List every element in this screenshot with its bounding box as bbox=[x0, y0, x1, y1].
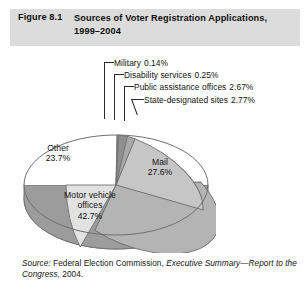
pie-label-mail-name: Mail bbox=[135, 157, 185, 167]
leader-stub-state-designated bbox=[131, 99, 144, 100]
leader-stub-disability bbox=[114, 74, 124, 75]
callout-value-disability-services: 0.25% bbox=[195, 70, 219, 80]
source-year: 2004. bbox=[60, 269, 83, 279]
pie-label-motor-value: 42.7% bbox=[45, 211, 135, 221]
callout-label-military: Military bbox=[114, 58, 141, 68]
callout-state-designated-sites: State-designated sites2.77% bbox=[144, 95, 255, 105]
pie-label-other: Other 23.7% bbox=[28, 143, 88, 164]
callout-value-state-designated-sites: 2.77% bbox=[231, 95, 255, 105]
callout-value-public-assistance-offices: 2.67% bbox=[229, 82, 253, 92]
leader-stub-military bbox=[104, 62, 114, 63]
pie-label-motor-name-line1: Motor vehicle bbox=[45, 190, 135, 200]
callout-disability-services: Disability services0.25% bbox=[124, 70, 219, 80]
pie-label-other-value: 23.7% bbox=[28, 153, 88, 163]
figure-number: Figure 8.1 bbox=[18, 12, 62, 22]
leader-stub-public-assistance bbox=[124, 86, 134, 87]
pie-label-mail-value: 27.6% bbox=[135, 167, 185, 177]
pie-label-other-name: Other bbox=[28, 143, 88, 153]
callout-public-assistance-offices: Public assistance offices2.67% bbox=[134, 82, 253, 92]
leader-line-military bbox=[104, 62, 105, 119]
source-prefix: Source: bbox=[22, 258, 51, 268]
callout-label-disability-services: Disability services bbox=[124, 70, 192, 80]
source-agency: Federal Election Commission, bbox=[51, 258, 166, 268]
pie-chart-svg bbox=[16, 113, 216, 253]
callout-value-military: 0.14% bbox=[144, 58, 168, 68]
callout-label-public-assistance-offices: Public assistance offices bbox=[134, 82, 226, 92]
pie-chart bbox=[16, 113, 216, 253]
source-work-line1: Executive Summary— bbox=[166, 258, 248, 268]
pie-label-motor-vehicle-offices: Motor vehicle offices 42.7% bbox=[45, 190, 135, 221]
pie-label-motor-name-line2: offices bbox=[45, 200, 135, 210]
figure-title: Sources of Voter Registration Applicatio… bbox=[74, 12, 284, 38]
pie-label-mail: Mail 27.6% bbox=[135, 157, 185, 178]
source-note: Source: Federal Election Commission, Exe… bbox=[22, 258, 302, 281]
callout-military: Military0.14% bbox=[114, 58, 168, 68]
callout-label-state-designated-sites: State-designated sites bbox=[144, 95, 228, 105]
